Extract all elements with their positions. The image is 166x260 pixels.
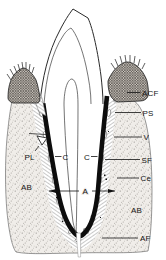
label-ce: Ce bbox=[141, 174, 152, 183]
root-canal-right-wall bbox=[76, 105, 78, 233]
label-sf: SF bbox=[142, 156, 153, 165]
label-v: V bbox=[144, 133, 150, 142]
label-c-right: C bbox=[84, 153, 90, 162]
label-acf: ACF bbox=[142, 89, 159, 98]
label-ab-right: AB bbox=[131, 206, 142, 215]
label-a: A bbox=[83, 187, 89, 196]
diagram-canvas: ACF PS V SF Ce AF AB AB PL C C A bbox=[0, 0, 166, 260]
label-c-left: C bbox=[63, 153, 69, 162]
label-ab-left: AB bbox=[21, 183, 32, 192]
label-ps: PS bbox=[143, 109, 154, 118]
label-pl: PL bbox=[25, 153, 36, 162]
dental-periodontium-figure: ACF PS V SF Ce AF AB AB PL C C A bbox=[0, 0, 166, 260]
label-af: AF bbox=[140, 234, 151, 243]
alveolar-bone bbox=[6, 95, 153, 254]
